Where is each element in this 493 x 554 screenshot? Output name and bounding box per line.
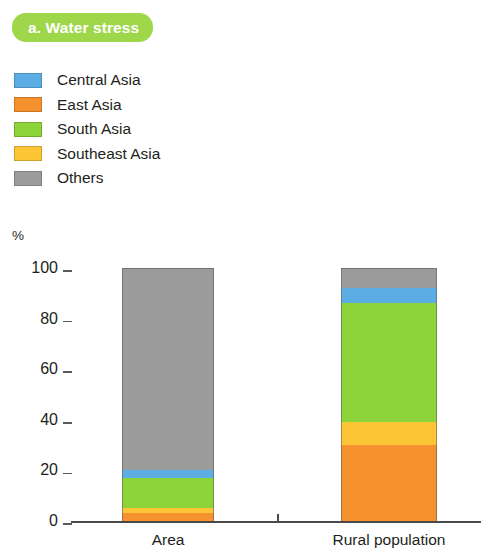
- y-axis-tick-100: 100: [0, 260, 72, 276]
- y-axis-tick-mark: [63, 523, 72, 525]
- y-axis-tick-mark: [63, 371, 72, 373]
- bar-segment-south-asia: [341, 303, 437, 422]
- y-axis-tick-mark: [63, 422, 72, 424]
- x-axis-center-tick: [277, 514, 279, 521]
- y-axis-tick-80: 80: [0, 311, 72, 327]
- y-axis-tick-label: 0: [49, 513, 58, 529]
- y-axis-tick-label: 40: [40, 412, 58, 428]
- bar-segment-central-asia: [341, 288, 437, 303]
- bar-segment-south-asia: [122, 478, 214, 508]
- y-axis-tick-mark: [63, 473, 72, 475]
- x-axis-line: [71, 521, 481, 523]
- bar-segment-others: [341, 268, 437, 288]
- bar-segment-east-asia: [341, 445, 437, 521]
- y-axis-tick-0: 0: [0, 513, 72, 529]
- bar-segment-central-asia: [122, 470, 214, 478]
- stacked-bar-rural-population: [341, 268, 437, 521]
- y-axis-tick-label: 60: [40, 361, 58, 377]
- x-axis-label-rural-population: Rural population: [279, 531, 493, 549]
- bar-segment-others: [122, 268, 214, 470]
- y-axis-tick-mark: [63, 321, 72, 323]
- y-axis-unit-label: %: [12, 228, 24, 243]
- bar-segment-southeast-asia: [341, 422, 437, 445]
- chart-plot-area: % 100806040200 AreaRural population: [0, 0, 493, 554]
- stacked-bar-area: [122, 268, 214, 521]
- y-axis-tick-label: 20: [40, 462, 58, 478]
- y-axis-tick-40: 40: [0, 412, 72, 428]
- bar-segment-east-asia: [122, 513, 214, 521]
- y-axis-tick-label: 80: [40, 311, 58, 327]
- y-axis-tick-60: 60: [0, 361, 72, 377]
- y-axis-tick-mark: [63, 270, 72, 272]
- y-axis-tick-label: 100: [31, 260, 58, 276]
- y-axis-tick-20: 20: [0, 462, 72, 478]
- x-axis-label-area: Area: [58, 531, 278, 549]
